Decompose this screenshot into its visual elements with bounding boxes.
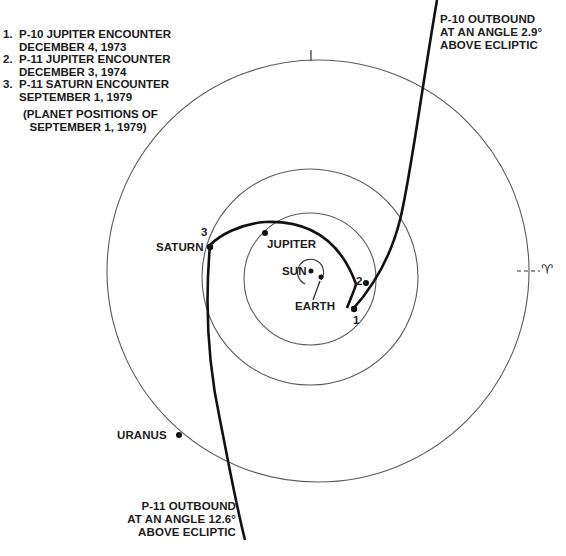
p10-outbound-line: AT AN ANGLE 2.9°: [440, 26, 542, 39]
legend-note: (PLANET POSITIONS OF SEPTEMBER 1, 1979): [23, 108, 153, 133]
legend-item-title: P-11 SATURN ENCOUNTER: [19, 78, 169, 90]
p10-outbound-label: P-10 OUTBOUND AT AN ANGLE 2.9° ABOVE ECL…: [440, 13, 542, 52]
p11-outbound-line: AT AN ANGLE 12.6°: [126, 513, 236, 526]
saturn-orbit: [202, 169, 418, 385]
legend-item-title: P-11 JUPITER ENCOUNTER: [19, 53, 170, 65]
legend-item-number: 2.: [3, 53, 19, 66]
p10-outbound-line: ABOVE ECLIPTIC: [440, 39, 542, 52]
vernal-equinox-icon: ♈︎: [541, 263, 553, 276]
saturn-label: SATURN: [156, 241, 204, 254]
legend-item-1: 1.P-10 JUPITER ENCOUNTER: [3, 28, 171, 41]
encounter-marker-2: 2: [356, 275, 363, 288]
p10-outbound-line: P-10 OUTBOUND: [440, 13, 542, 26]
legend-item-2: 2.P-11 JUPITER ENCOUNTER: [3, 53, 171, 66]
earth-dot: [319, 275, 324, 280]
uranus-dot: [176, 432, 182, 438]
legend-item-number: 3.: [3, 78, 19, 91]
legend-item-date: DECEMBER 4, 1973: [3, 41, 171, 54]
earth-label: EARTH: [295, 300, 335, 313]
p11-outbound-line: P-11 OUTBOUND: [126, 500, 236, 513]
uranus-label: URANUS: [117, 429, 167, 442]
legend-item-number: 1.: [3, 28, 19, 41]
encounter-1-dot: [351, 306, 357, 312]
legend-item-3: 3.P-11 SATURN ENCOUNTER: [3, 78, 171, 91]
legend-item-date: DECEMBER 3, 1974: [3, 66, 171, 79]
sun-label: SUN: [282, 265, 307, 278]
earth-pointer: [313, 281, 320, 300]
encounter-2-dot: [363, 280, 369, 286]
saturn-dot: [207, 244, 213, 250]
legend-note-line: (PLANET POSITIONS OF: [23, 108, 153, 121]
legend-item-title: P-10 JUPITER ENCOUNTER: [19, 28, 171, 40]
legend-item-date: SEPTEMBER 1, 1979: [3, 91, 171, 104]
jupiter-dot: [262, 230, 268, 236]
p10-trajectory: [353, 0, 437, 309]
p11-outbound-label: P-11 OUTBOUND AT AN ANGLE 12.6° ABOVE EC…: [126, 500, 236, 539]
encounter-marker-1: 1: [353, 314, 360, 327]
jupiter-label: JUPITER: [267, 238, 316, 251]
sun-dot: [309, 269, 314, 274]
legend: 1.P-10 JUPITER ENCOUNTER DECEMBER 4, 197…: [3, 28, 171, 133]
encounter-marker-3: 3: [201, 226, 208, 239]
p11-outbound-line: ABOVE ECLIPTIC: [126, 526, 236, 539]
legend-note-line: SEPTEMBER 1, 1979): [23, 121, 153, 134]
